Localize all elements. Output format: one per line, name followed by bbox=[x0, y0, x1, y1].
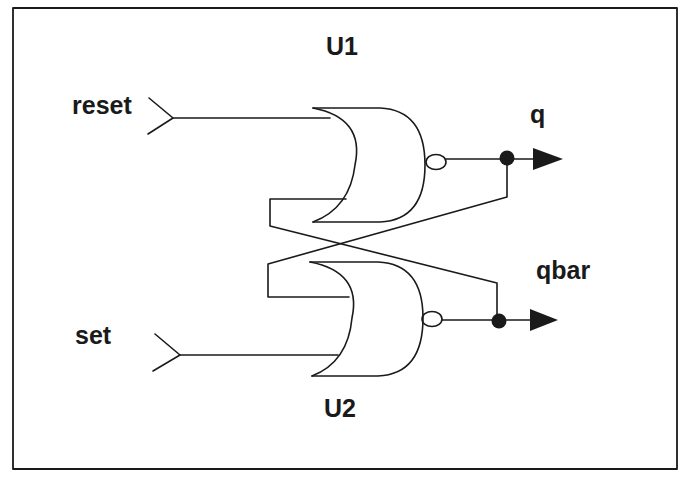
q-junction-dot bbox=[500, 151, 515, 166]
sr-latch-diagram: U1 U2 reset set q qbar bbox=[0, 0, 691, 480]
qbar-junction-dot bbox=[492, 314, 507, 329]
qbar-label: qbar bbox=[536, 258, 590, 283]
q-arrow-icon bbox=[533, 148, 563, 170]
reset-connector-icon bbox=[148, 98, 173, 134]
u2-nor-gate-icon bbox=[310, 262, 442, 376]
qbar-arrow-icon bbox=[530, 309, 558, 331]
set-label: set bbox=[75, 323, 111, 348]
u2-label: U2 bbox=[324, 396, 356, 421]
q-label: q bbox=[530, 102, 545, 127]
set-connector-icon bbox=[153, 334, 180, 371]
u1-nor-gate-icon bbox=[313, 108, 446, 222]
u1-label: U1 bbox=[326, 34, 358, 59]
qbar-feedback-wire bbox=[270, 199, 497, 321]
reset-label: reset bbox=[72, 93, 132, 118]
